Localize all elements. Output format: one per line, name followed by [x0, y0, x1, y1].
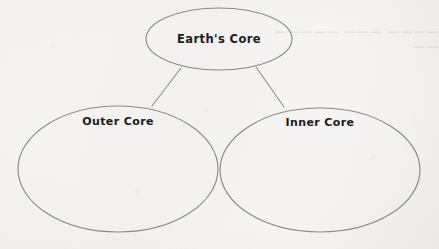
node-label-earths-core: Earth's Core: [177, 32, 261, 46]
node-label-inner-core: Inner Core: [286, 116, 355, 129]
node-label-outer-core: Outer Core: [82, 115, 154, 128]
connector-root-to-outer-core: [152, 68, 181, 106]
worksheet-page: ———— ——— ————— —— ——— ———— ——— Earth's C…: [0, 0, 439, 249]
connector-root-to-inner-core: [256, 67, 284, 107]
